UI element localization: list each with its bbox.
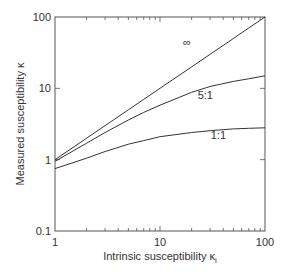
- x-axis-label: Intrinsic susceptibility κi: [103, 250, 217, 265]
- curve-label: 5:1: [198, 89, 213, 101]
- tick-labels: 1101000.1110100: [33, 11, 275, 248]
- axis-ticks: [55, 17, 265, 231]
- x-tick-label: 1: [52, 236, 58, 248]
- x-tick-label: 10: [154, 236, 166, 248]
- plot-border: [55, 17, 265, 231]
- y-tick-label: 100: [33, 11, 51, 23]
- plot-frame: [55, 17, 265, 231]
- susceptibility-chart: 1101000.1110100 ∞5:11:1 Intrinsic suscep…: [0, 0, 288, 277]
- curves: [55, 17, 265, 169]
- x-tick-label: 100: [256, 236, 274, 248]
- curve-labels: ∞5:11:1: [183, 36, 226, 142]
- curve-infinity: [55, 17, 265, 160]
- y-tick-label: 0.1: [36, 225, 51, 237]
- y-tick-label: 10: [39, 82, 51, 94]
- curve-label: ∞: [183, 36, 191, 48]
- curve-1-to-1: [55, 128, 265, 169]
- y-tick-label: 1: [45, 154, 51, 166]
- curve-label: 1:1: [211, 129, 226, 141]
- y-axis-label: Measured susceptibility κ: [14, 62, 26, 185]
